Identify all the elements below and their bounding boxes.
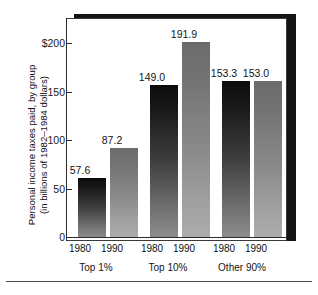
bar-top1pct-1980 — [78, 178, 106, 237]
chart-figure: Personal income taxes paid, by group (in… — [0, 0, 318, 295]
y-tick-label-150: 150 — [47, 87, 65, 98]
bar-top1pct-1990 — [110, 148, 138, 237]
y-tick-label-100: 100 — [47, 135, 65, 146]
bar-value-top10pct-1980: 149.0 — [132, 72, 172, 83]
bar-other90pct-1990 — [254, 81, 282, 237]
y-tick-label-50: 50 — [53, 184, 65, 195]
bar-value-top10pct-1990: 191.9 — [164, 29, 204, 40]
bottom-divider-rule — [6, 281, 312, 282]
y-axis-title-line1: Personal income taxes paid, by group — [26, 65, 37, 226]
x-axis-line — [66, 237, 287, 238]
y-tick-label-0: 0 — [59, 232, 65, 243]
y-tick-label-200: $200 — [42, 38, 65, 49]
x-group-label-top10pct: Top 10% — [148, 263, 188, 273]
x-group-label-top1pct: Top 1% — [76, 263, 116, 273]
bar-value-other90pct-1990: 153.0 — [236, 68, 276, 79]
y-axis-title: Personal income taxes paid, by group (in… — [26, 45, 50, 245]
x-label-top1pct-1990: 1990 — [92, 244, 132, 254]
x-label-other90pct-1990: 1990 — [236, 244, 276, 254]
bar-value-top1pct-1980: 57.6 — [60, 165, 100, 176]
bar-other90pct-1980 — [222, 81, 250, 237]
bar-value-top1pct-1990: 87.2 — [92, 135, 132, 146]
bar-top10pct-1980 — [150, 85, 178, 237]
bars-layer — [66, 18, 287, 237]
x-group-label-other90pct: Other 90% — [216, 263, 268, 273]
x-label-top10pct-1990: 1990 — [164, 244, 204, 254]
